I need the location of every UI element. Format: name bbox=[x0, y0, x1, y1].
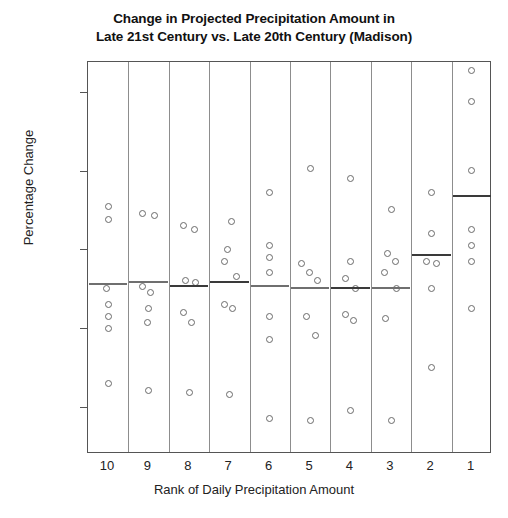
data-point bbox=[342, 275, 349, 282]
chart-title-line-2: Late 21st Century vs. Late 20th Century … bbox=[0, 28, 508, 46]
data-point bbox=[105, 301, 112, 308]
data-point bbox=[221, 301, 228, 308]
median-line bbox=[89, 283, 127, 285]
data-point bbox=[188, 319, 195, 326]
median-line bbox=[210, 281, 248, 283]
data-point bbox=[139, 210, 146, 217]
y-tick-mark bbox=[80, 249, 88, 250]
median-line bbox=[331, 287, 369, 289]
data-point bbox=[224, 246, 231, 253]
median-line bbox=[170, 285, 208, 287]
data-point bbox=[303, 313, 310, 320]
x-tick-label: 6 bbox=[249, 458, 289, 473]
column-divider bbox=[169, 62, 170, 452]
data-point bbox=[381, 269, 388, 276]
data-point bbox=[186, 389, 193, 396]
data-point bbox=[468, 167, 475, 174]
data-point bbox=[468, 305, 475, 312]
data-point bbox=[314, 277, 321, 284]
column-divider bbox=[411, 62, 412, 452]
data-point bbox=[428, 230, 435, 237]
median-line bbox=[412, 254, 450, 256]
data-point bbox=[307, 165, 314, 172]
x-tick-label: 2 bbox=[410, 458, 450, 473]
y-axis-label: Percentage Change bbox=[21, 88, 36, 288]
data-point bbox=[388, 417, 395, 424]
column-divider bbox=[209, 62, 210, 452]
data-point bbox=[428, 364, 435, 371]
data-point bbox=[144, 319, 151, 326]
x-tick-label: 9 bbox=[127, 458, 167, 473]
data-point bbox=[266, 269, 273, 276]
column-divider bbox=[330, 62, 331, 452]
data-point bbox=[229, 305, 236, 312]
data-point bbox=[384, 250, 391, 257]
data-point bbox=[266, 242, 273, 249]
median-line bbox=[453, 195, 491, 197]
x-tick-label: 3 bbox=[370, 458, 410, 473]
x-tick-label: 4 bbox=[329, 458, 369, 473]
data-point bbox=[306, 269, 313, 276]
data-point bbox=[105, 216, 112, 223]
data-point bbox=[388, 206, 395, 213]
data-point bbox=[145, 305, 152, 312]
x-tick-label: 7 bbox=[208, 458, 248, 473]
data-point bbox=[468, 258, 475, 265]
plot-area bbox=[87, 61, 491, 453]
column-divider bbox=[250, 62, 251, 452]
data-point bbox=[347, 175, 354, 182]
data-point bbox=[105, 325, 112, 332]
data-point bbox=[468, 67, 475, 74]
data-point bbox=[233, 273, 240, 280]
x-axis-label: Rank of Daily Precipitation Amount bbox=[0, 482, 508, 497]
y-tick-mark bbox=[80, 407, 88, 408]
data-point bbox=[312, 332, 319, 339]
y-tick-mark bbox=[80, 171, 88, 172]
data-point bbox=[266, 336, 273, 343]
data-point bbox=[103, 285, 110, 292]
chart-title: Change in Projected Precipitation Amount… bbox=[0, 10, 508, 46]
data-point bbox=[468, 98, 475, 105]
data-point bbox=[433, 260, 440, 267]
y-tick-mark bbox=[80, 328, 88, 329]
chart-figure: Change in Projected Precipitation Amount… bbox=[0, 0, 508, 518]
x-tick-label: 10 bbox=[87, 458, 127, 473]
median-line bbox=[372, 287, 410, 289]
x-tick-label: 8 bbox=[168, 458, 208, 473]
median-line bbox=[129, 281, 167, 283]
data-point bbox=[423, 258, 430, 265]
data-point bbox=[266, 415, 273, 422]
median-line bbox=[251, 285, 289, 287]
data-point bbox=[382, 315, 389, 322]
x-tick-label: 5 bbox=[289, 458, 329, 473]
data-point bbox=[468, 242, 475, 249]
column-divider bbox=[128, 62, 129, 452]
data-point bbox=[428, 285, 435, 292]
data-point bbox=[347, 407, 354, 414]
data-point bbox=[147, 289, 154, 296]
data-point bbox=[392, 258, 399, 265]
median-line bbox=[291, 287, 329, 289]
data-point bbox=[221, 258, 228, 265]
column-divider bbox=[290, 62, 291, 452]
data-point bbox=[228, 218, 235, 225]
data-point bbox=[342, 311, 349, 318]
data-point bbox=[226, 391, 233, 398]
column-divider bbox=[371, 62, 372, 452]
y-tick-mark bbox=[80, 92, 88, 93]
data-point bbox=[266, 313, 273, 320]
data-point bbox=[180, 309, 187, 316]
data-point bbox=[105, 313, 112, 320]
data-point bbox=[151, 212, 158, 219]
data-point bbox=[266, 189, 273, 196]
data-point bbox=[105, 203, 112, 210]
data-point bbox=[298, 260, 305, 267]
data-point bbox=[428, 189, 435, 196]
data-point bbox=[266, 254, 273, 261]
data-point bbox=[105, 380, 112, 387]
data-point bbox=[468, 226, 475, 233]
data-point bbox=[182, 277, 189, 284]
data-point bbox=[307, 417, 314, 424]
data-point bbox=[180, 222, 187, 229]
data-point bbox=[191, 226, 198, 233]
